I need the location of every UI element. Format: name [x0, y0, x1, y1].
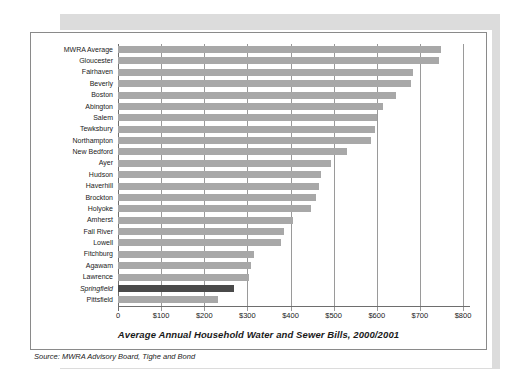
bar-row: Pittsfield	[31, 294, 488, 305]
bar-category-label: Northampton	[31, 137, 113, 145]
bar-row: Amherst	[31, 215, 488, 226]
bar	[118, 46, 441, 53]
bar	[118, 251, 254, 258]
bar-row: Tewksbury	[31, 124, 488, 135]
bar	[118, 126, 375, 133]
bar-category-label: Fitchburg	[31, 250, 113, 258]
bar-category-label: Beverly	[31, 80, 113, 88]
bar-category-label: Lowell	[31, 239, 113, 247]
bar-row: Gloucester	[31, 55, 488, 66]
bar	[118, 194, 316, 201]
bar-row: Abington	[31, 101, 488, 112]
bar-category-label: New Bedford	[31, 148, 113, 156]
bar-category-label: Holyoke	[31, 205, 113, 213]
bar-row: Northampton	[31, 135, 488, 146]
bar-row: Ayer	[31, 158, 488, 169]
bar-category-label: Tewksbury	[31, 125, 113, 133]
x-tick-label: $500	[325, 311, 342, 321]
bar	[118, 217, 293, 224]
bar-category-label: Ayer	[31, 159, 113, 167]
x-tick-label: $400	[282, 311, 299, 321]
bar-row: Fitchburg	[31, 249, 488, 260]
bar-category-label: Amherst	[31, 216, 113, 224]
bar	[118, 160, 331, 167]
bar-row: Lowell	[31, 237, 488, 248]
x-tick-label: 0	[116, 311, 120, 321]
bar	[118, 137, 371, 144]
bar-category-label: Gloucester	[31, 57, 113, 65]
x-tick-label: $100	[153, 311, 170, 321]
bar-row: New Bedford	[31, 146, 488, 157]
bar-category-label: Boston	[31, 91, 113, 99]
bar	[118, 69, 413, 76]
bar-category-label: Haverhill	[31, 182, 113, 190]
x-tick-label: $700	[412, 311, 429, 321]
x-tick-label: $200	[196, 311, 213, 321]
bar-category-label: Pittsfield	[31, 296, 113, 304]
bar-row: Beverly	[31, 78, 488, 89]
chart-frame: MWRA AverageGloucesterFairhavenBeverlyBo…	[30, 32, 487, 350]
bar-row: Holyoke	[31, 203, 488, 214]
x-axis-ticks: 0$100$200$300$400$500$600$700$800	[31, 311, 488, 325]
bar	[118, 171, 321, 178]
bar-rows: MWRA AverageGloucesterFairhavenBeverlyBo…	[31, 44, 488, 306]
bar-row: MWRA Average	[31, 44, 488, 55]
bar	[118, 239, 281, 246]
bar-row: Brockton	[31, 192, 488, 203]
bar	[118, 80, 411, 87]
bar	[118, 57, 439, 64]
bar	[118, 92, 396, 99]
bar-row: Boston	[31, 90, 488, 101]
bar-category-label: Brockton	[31, 194, 113, 202]
bar-row: Agawam	[31, 260, 488, 271]
bar-category-label: Salem	[31, 114, 113, 122]
bar-category-label: Abington	[31, 103, 113, 111]
bar	[118, 114, 377, 121]
bar-row: Fairhaven	[31, 67, 488, 78]
source-label: Source: MWRA Advisory Board, Tighe and B…	[34, 352, 195, 361]
bar-row: Salem	[31, 112, 488, 123]
bar	[118, 285, 234, 292]
bar	[118, 296, 218, 303]
bar-row: Fall River	[31, 226, 488, 237]
bar	[118, 183, 319, 190]
bar	[118, 103, 383, 110]
x-axis-line	[118, 306, 470, 307]
bar	[118, 228, 284, 235]
bar-row: Hudson	[31, 169, 488, 180]
bar-category-label: Lawrence	[31, 273, 113, 281]
x-tick-label: $300	[239, 311, 256, 321]
bar-category-label: Fall River	[31, 228, 113, 236]
bar-category-label: MWRA Average	[31, 46, 113, 54]
chart-title: Average Annual Household Water and Sewer…	[31, 329, 486, 340]
bar-category-label: Agawam	[31, 262, 113, 270]
bar	[118, 274, 249, 281]
bar-category-label: Hudson	[31, 171, 113, 179]
bar	[118, 262, 251, 269]
bar-category-label: Fairhaven	[31, 68, 113, 76]
x-tick-label: $800	[455, 311, 472, 321]
bar-row: Lawrence	[31, 272, 488, 283]
bar-row: Haverhill	[31, 181, 488, 192]
bar-category-label: Springfield	[31, 285, 113, 293]
source-note: Source: MWRA Advisory Board, Tighe and B…	[34, 352, 195, 361]
bar	[118, 148, 347, 155]
bar-row: Springfield	[31, 283, 488, 294]
bar	[118, 205, 311, 212]
x-tick-label: $600	[368, 311, 385, 321]
